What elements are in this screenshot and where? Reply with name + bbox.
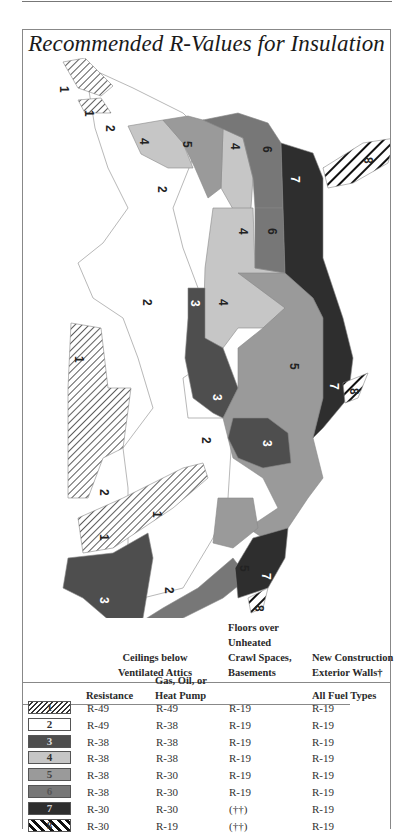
table-row: 3 R-38 R-38 R-19 R-19 xyxy=(23,734,390,751)
cell-walls: R-19 xyxy=(312,803,334,815)
cell-gas-oil: R-38 xyxy=(156,719,178,731)
zone-label: 8 xyxy=(347,388,361,395)
zone-label: 1 xyxy=(82,110,96,117)
zone-label: 8 xyxy=(252,605,266,612)
table-row: 7 R-30 R-30 (††) R-19 xyxy=(23,801,390,818)
zone-label: 4 xyxy=(137,138,151,145)
table-row: 6 R-38 R-30 R-19 R-19 xyxy=(23,784,390,801)
cell-walls: R-19 xyxy=(312,786,334,798)
cell-floors: R-19 xyxy=(229,736,251,748)
zone-label: 3 xyxy=(188,300,202,307)
zone-label: 5 xyxy=(180,141,194,148)
cell-gas-oil: R-30 xyxy=(156,803,178,815)
zone-label: 5 xyxy=(237,565,251,572)
zone-label: 7 xyxy=(259,573,273,580)
zone-label: 1 xyxy=(57,86,71,93)
zone-label: 3 xyxy=(260,440,274,447)
cell-gas-oil: R-30 xyxy=(156,786,178,798)
header-floors: Floors over Unheated Crawl Spaces, Basem… xyxy=(228,620,292,680)
zone-label: 7 xyxy=(288,176,302,183)
subheader-all-fuel: All Fuel Types xyxy=(312,673,376,703)
zone-label: 3 xyxy=(97,597,111,604)
cell-gas-oil: R-38 xyxy=(156,752,178,764)
zone-2-swatch: 2 xyxy=(28,718,71,731)
zone-label: 5 xyxy=(287,363,301,370)
zone-6-region xyxy=(255,208,285,273)
subheader-resistance: Resistance xyxy=(86,673,133,703)
zone-8-swatch: 8 xyxy=(28,819,71,832)
cell-resistance: R-30 xyxy=(87,820,109,832)
cell-resistance: R-30 xyxy=(87,803,109,815)
cell-gas-oil: R-30 xyxy=(156,769,178,781)
cell-gas-oil: R-49 xyxy=(156,702,178,714)
zone-label: 7 xyxy=(327,383,341,390)
table-row: 8 R-30 R-19 (††) R-19 xyxy=(23,818,390,835)
zone-8-region xyxy=(323,138,390,188)
zone-label: 3 xyxy=(210,394,224,401)
cell-resistance: R-38 xyxy=(87,736,109,748)
cell-floors: R-19 xyxy=(229,769,251,781)
zone-1-region xyxy=(68,323,131,498)
zone-label: 2 xyxy=(155,186,169,193)
cell-floors: (††) xyxy=(229,820,247,832)
zone-label: 2 xyxy=(103,125,117,132)
table-row: 4 R-38 R-38 R-19 R-19 xyxy=(23,750,390,767)
figure-title: Recommended R-Values for Insulation xyxy=(22,31,391,57)
zone-7-swatch: 7 xyxy=(28,802,71,815)
zone-label: 4 xyxy=(228,143,242,150)
cell-floors: R-19 xyxy=(229,786,251,798)
subheader-gas-oil-heatpump: Gas, Oil, or Heat Pump xyxy=(155,673,207,703)
zone-4-swatch: 4 xyxy=(28,751,71,764)
cell-floors: (††) xyxy=(229,803,247,815)
table-row: 2 R-49 R-38 R-19 R-19 xyxy=(23,717,390,734)
zone-5-swatch: 5 xyxy=(28,768,71,781)
cell-resistance: R-38 xyxy=(87,769,109,781)
cell-walls: R-19 xyxy=(312,736,334,748)
us-insulation-zone-map: 1 1 2 4 5 4 6 8 7 2 4 6 2 3 4 1 5 7 8 3 … xyxy=(23,58,390,618)
zone-label: 2 xyxy=(140,299,154,306)
cell-resistance: R-38 xyxy=(87,786,109,798)
zone-1-swatch: 1 xyxy=(28,701,71,714)
zone-6-swatch: 6 xyxy=(28,785,71,798)
zone-label: 1 xyxy=(150,511,164,518)
zone-3-swatch: 3 xyxy=(28,735,71,748)
cell-walls: R-19 xyxy=(312,820,334,832)
table-row: 5 R-38 R-30 R-19 R-19 xyxy=(23,767,390,784)
zone-label: 6 xyxy=(265,228,279,235)
zone-label: 2 xyxy=(97,489,111,496)
cell-walls: R-19 xyxy=(312,752,334,764)
cell-resistance: R-49 xyxy=(87,702,109,714)
cell-gas-oil: R-38 xyxy=(156,736,178,748)
cell-walls: R-19 xyxy=(312,719,334,731)
zone-label: 2 xyxy=(162,587,176,594)
table-row: 1 R-49 R-49 R-19 R-19 xyxy=(23,700,390,717)
zone-label: 4 xyxy=(236,228,250,235)
zone-label: 6 xyxy=(260,146,274,153)
cell-walls: R-19 xyxy=(312,702,334,714)
zone-label: 1 xyxy=(97,534,111,541)
zone-label: 2 xyxy=(199,437,213,444)
cell-floors: R-19 xyxy=(229,752,251,764)
cell-resistance: R-38 xyxy=(87,752,109,764)
cell-gas-oil: R-19 xyxy=(156,820,178,832)
cell-walls: R-19 xyxy=(312,769,334,781)
cell-floors: R-19 xyxy=(229,702,251,714)
zone-label: 8 xyxy=(361,157,375,164)
zone-label: 1 xyxy=(72,356,86,363)
page-top-rule xyxy=(22,1,392,2)
cell-resistance: R-49 xyxy=(87,719,109,731)
cell-floors: R-19 xyxy=(229,719,251,731)
zone-label: 4 xyxy=(216,299,230,306)
